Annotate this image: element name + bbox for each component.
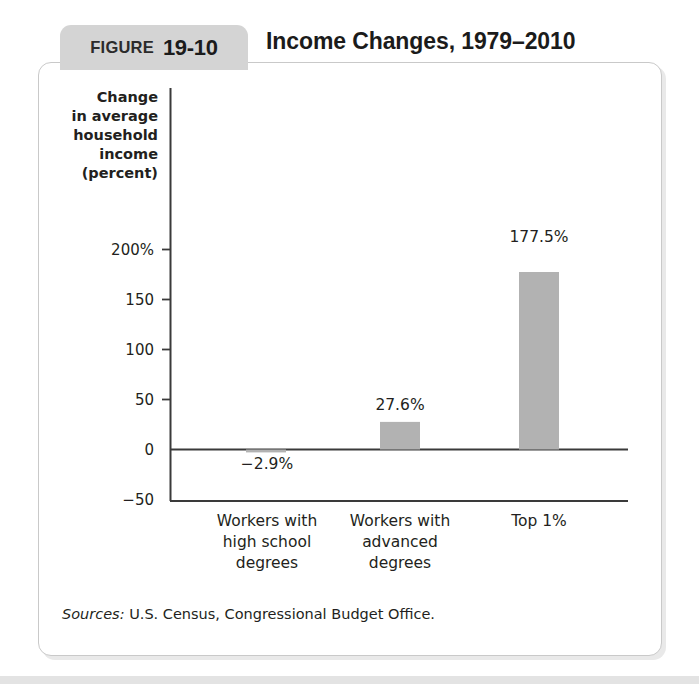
category-label-line: advanced <box>325 532 475 553</box>
category-label-line: degrees <box>192 553 342 574</box>
category-label-line: Workers with <box>325 511 475 532</box>
category-label-line: Workers with <box>192 511 342 532</box>
bar <box>246 450 286 453</box>
category-label-line: Top 1% <box>464 511 614 532</box>
y-tick-label: 50 <box>92 391 154 409</box>
category-label-high-school: Workers with high school degrees <box>192 511 342 574</box>
y-tick-label: 200% <box>92 241 154 259</box>
bar <box>519 272 559 450</box>
source-note: Sources: U.S. Census, Congressional Budg… <box>62 606 435 622</box>
category-label-advanced: Workers with advanced degrees <box>325 511 475 574</box>
source-text: U.S. Census, Congressional Budget Office… <box>125 606 435 622</box>
bars-group <box>246 272 559 452</box>
category-label-line: degrees <box>325 553 475 574</box>
y-tick-label: −50 <box>92 491 154 509</box>
bar <box>380 422 420 450</box>
category-label-top1: Top 1% <box>464 511 614 532</box>
category-label-line: high school <box>192 532 342 553</box>
y-tick-label: 100 <box>92 341 154 359</box>
source-label: Sources: <box>62 606 125 622</box>
bar-value-label: −2.9% <box>207 455 327 473</box>
bar-value-label: 177.5% <box>479 228 599 246</box>
y-tick-label: 0 <box>92 441 154 459</box>
y-tick-label: 150 <box>92 291 154 309</box>
y-axis-ticks <box>162 250 170 500</box>
bar-value-label: 27.6% <box>340 396 460 414</box>
bar-chart: Change in average household income (perc… <box>0 0 699 684</box>
